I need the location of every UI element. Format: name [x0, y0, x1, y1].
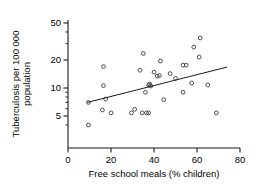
- x-tick-label-20: 20: [106, 154, 117, 165]
- data-point: [168, 72, 172, 76]
- x-axis-tick-labels: 020406080: [65, 154, 245, 165]
- x-tick-label-60: 60: [192, 154, 203, 165]
- data-point: [87, 123, 91, 127]
- data-point: [144, 90, 148, 94]
- data-point: [192, 45, 196, 49]
- y-axis: 5102050: [50, 17, 68, 148]
- data-point: [197, 55, 201, 59]
- figure-scatter-tb-vs-free-school-meals: 5102050 020406080 Free school meals (% c…: [0, 0, 265, 188]
- x-tick-label-0: 0: [65, 154, 70, 165]
- data-point: [162, 98, 166, 102]
- x-tick-label-80: 80: [235, 154, 246, 165]
- y-tick-label-20: 20: [50, 54, 61, 65]
- data-point: [140, 111, 144, 115]
- x-axis-title: Free school meals (% children): [89, 168, 220, 179]
- y-tick-label-50: 50: [50, 17, 61, 28]
- data-point: [102, 65, 106, 69]
- data-point: [159, 59, 163, 63]
- chart-canvas: 5102050 020406080 Free school meals (% c…: [0, 0, 265, 188]
- data-point: [138, 68, 142, 72]
- data-point: [190, 81, 194, 85]
- scatter-points: [87, 36, 219, 127]
- data-point: [214, 111, 218, 115]
- data-point: [141, 52, 145, 56]
- data-point: [130, 111, 134, 115]
- data-point: [101, 108, 105, 112]
- data-point: [102, 84, 106, 88]
- y-tick-label-5: 5: [56, 110, 61, 121]
- data-point: [206, 83, 210, 87]
- data-point: [198, 36, 202, 40]
- y-tick-label-10: 10: [50, 82, 61, 93]
- y-axis-title-line1: Tuberculosis per 100 000: [10, 31, 21, 138]
- y-axis-tick-labels: 5102050: [50, 17, 61, 121]
- x-axis: 020406080: [65, 148, 245, 165]
- x-tick-label-40: 40: [149, 154, 160, 165]
- data-point: [181, 90, 185, 94]
- data-point: [109, 111, 113, 115]
- x-axis-major-ticks: [68, 148, 240, 153]
- y-axis-title-line2: population: [21, 62, 32, 106]
- data-point: [152, 70, 156, 74]
- data-point: [133, 107, 137, 111]
